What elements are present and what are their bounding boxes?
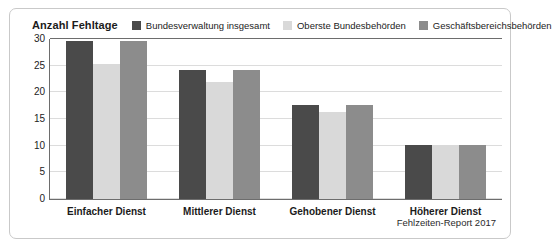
y-axis-tick-label: 10 <box>34 139 45 150</box>
bar[interactable] <box>93 64 120 199</box>
bar[interactable] <box>292 105 319 199</box>
bar-group: Gehobener Dienst <box>292 39 373 199</box>
y-axis-tick-label: 0 <box>39 193 45 204</box>
chart-title: Anzahl Fehltage <box>32 19 118 31</box>
plot-area: 051015202530 Einfacher DienstMittlerer D… <box>49 39 502 200</box>
legend-item[interactable]: Geschäftsbereichsbehörden <box>419 20 552 31</box>
bar[interactable] <box>206 82 233 199</box>
y-axis-tick-label: 30 <box>34 33 45 44</box>
bars-container: Einfacher DienstMittlerer DienstGehobene… <box>50 39 502 199</box>
chart-figure: Anzahl Fehltage Bundesverwaltung insgesa… <box>9 8 511 239</box>
x-axis-category-label: Gehobener Dienst <box>289 206 375 217</box>
bar[interactable] <box>459 145 486 199</box>
bar-group: Höherer Dienst <box>405 39 486 199</box>
legend-label: Geschäftsbereichsbehörden <box>433 20 552 31</box>
bar[interactable] <box>120 41 147 199</box>
chart-header: Anzahl Fehltage Bundesverwaltung insgesa… <box>32 17 504 33</box>
chart-legend: Bundesverwaltung insgesamtOberste Bundes… <box>132 20 556 31</box>
legend-label: Bundesverwaltung insgesamt <box>146 20 270 31</box>
bar-group: Einfacher Dienst <box>66 39 147 199</box>
source-note: Fehlzeiten-Report 2017 <box>397 217 496 228</box>
bar[interactable] <box>66 41 93 199</box>
x-axis-category-label: Einfacher Dienst <box>67 206 146 217</box>
y-axis-tick-label: 25 <box>34 59 45 70</box>
legend-item[interactable]: Bundesverwaltung insgesamt <box>132 20 270 31</box>
y-axis-tick-label: 5 <box>39 166 45 177</box>
legend-swatch-icon <box>419 21 428 30</box>
legend-swatch-icon <box>283 21 292 30</box>
x-axis-category-label: Höherer Dienst <box>410 206 482 217</box>
legend-label: Oberste Bundesbehörden <box>297 20 406 31</box>
legend-swatch-icon <box>132 21 141 30</box>
bar[interactable] <box>319 112 346 199</box>
bar-group: Mittlerer Dienst <box>179 39 260 199</box>
bar[interactable] <box>405 145 432 199</box>
bar[interactable] <box>233 70 260 199</box>
bar[interactable] <box>432 145 459 199</box>
bar[interactable] <box>179 70 206 199</box>
y-axis-tick-label: 20 <box>34 86 45 97</box>
legend-item[interactable]: Oberste Bundesbehörden <box>283 20 406 31</box>
bar[interactable] <box>346 105 373 199</box>
y-axis-tick-label: 15 <box>34 113 45 124</box>
x-axis-category-label: Mittlerer Dienst <box>183 206 256 217</box>
